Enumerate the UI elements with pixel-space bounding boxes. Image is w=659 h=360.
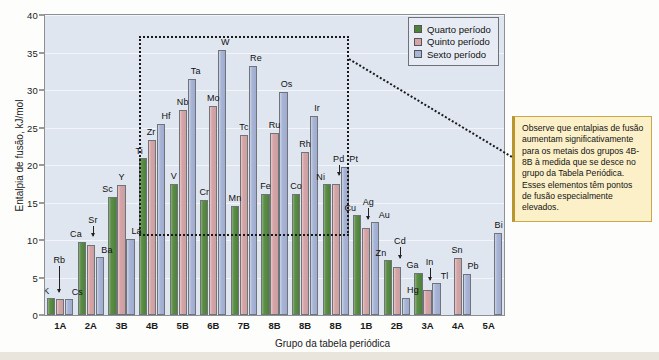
bar-Ca bbox=[78, 242, 86, 315]
bar-label-Y: Y bbox=[118, 172, 124, 182]
x-axis-tick-label-13: 4A bbox=[452, 320, 464, 331]
bar-Ba bbox=[96, 257, 104, 316]
y-axis: Entalpia de fusão, kJ/mol 05101520253035… bbox=[0, 0, 44, 330]
y-axis-tick-label: 20 bbox=[27, 160, 38, 171]
bar-label-Rb: Rb bbox=[53, 255, 65, 265]
bar-Ru bbox=[270, 133, 278, 315]
bar-label-V: V bbox=[171, 171, 177, 181]
bar-La bbox=[126, 239, 134, 316]
bar-label-Ba: Ba bbox=[101, 245, 112, 255]
bar-label-Os: Os bbox=[281, 79, 293, 89]
x-axis-tick-label-2: 3B bbox=[115, 320, 127, 331]
bar-label-Sr: Sr bbox=[88, 215, 97, 225]
bar-label-Ir: Ir bbox=[314, 103, 320, 113]
bar-label-Pd: Pd bbox=[333, 154, 344, 164]
y-axis-tick-label: 40 bbox=[27, 10, 38, 21]
bar-Rh bbox=[301, 152, 309, 315]
label-leader-line-Rb bbox=[59, 266, 60, 292]
bar-label-Sc: Sc bbox=[102, 184, 113, 194]
bar-label-La: La bbox=[131, 226, 141, 236]
bar-label-Ni: Ni bbox=[316, 172, 325, 182]
bar-Ni bbox=[323, 184, 331, 315]
bar-V bbox=[170, 184, 178, 315]
legend-item-quinto-periodo: Quinto período bbox=[414, 36, 491, 47]
y-axis-tick-label: 10 bbox=[27, 235, 38, 246]
chart-figure: Entalpia de fusão, kJ/mol 05101520253035… bbox=[0, 0, 659, 360]
bar-label-Ti: Ti bbox=[135, 146, 142, 156]
label-leader-line-Cd bbox=[400, 247, 401, 258]
bar-Rb bbox=[56, 299, 64, 316]
bar-Sn bbox=[454, 258, 462, 315]
bar-Zn bbox=[384, 260, 392, 315]
x-axis-title: Grupo da tabela periódica bbox=[275, 338, 390, 349]
x-axis-tick-label-3: 4B bbox=[146, 320, 158, 331]
bar-label-Cr: Cr bbox=[199, 187, 209, 197]
bar-label-Ag: Ag bbox=[363, 197, 374, 207]
gridline bbox=[45, 90, 504, 91]
legend-item-sexto-periodo: Sexto período bbox=[414, 49, 491, 60]
bar-label-Nb: Nb bbox=[177, 97, 189, 107]
x-axis-tick-label-6: 7B bbox=[238, 320, 250, 331]
y-axis-tick-label: 15 bbox=[27, 197, 38, 208]
bar-label-Zr: Zr bbox=[147, 127, 156, 137]
x-axis-tick-label-10: 1B bbox=[360, 320, 372, 331]
bar-label-Sn: Sn bbox=[451, 245, 462, 255]
bar-Cd bbox=[393, 267, 401, 315]
bar-Mn bbox=[231, 206, 239, 316]
bar-K bbox=[47, 298, 55, 315]
bar-label-In: In bbox=[426, 257, 434, 267]
label-leader-line-Ag bbox=[368, 208, 369, 219]
legend-label-quarto: Quarto período bbox=[427, 24, 491, 35]
bar-Mo bbox=[209, 106, 217, 315]
bar-label-Ru: Ru bbox=[269, 120, 281, 130]
bar-Au bbox=[371, 222, 379, 315]
x-axis-tick-label-9: 8B bbox=[330, 320, 342, 331]
bar-Os bbox=[279, 92, 287, 315]
x-axis-tick-label-1: 2A bbox=[85, 320, 97, 331]
bar-Fe bbox=[261, 194, 269, 316]
bar-Y bbox=[117, 185, 125, 315]
legend-swatch-icon-sexto bbox=[414, 50, 422, 58]
bar-W bbox=[218, 50, 226, 315]
bar-label-Tc: Tc bbox=[239, 122, 248, 132]
bar-label-K: K bbox=[44, 286, 49, 296]
bar-label-Hf: Hf bbox=[161, 111, 170, 121]
bar-Sr bbox=[87, 245, 95, 316]
legend: Quarto período Quinto período Sexto perí… bbox=[408, 17, 499, 66]
y-axis-tick-label: 35 bbox=[27, 47, 38, 58]
bar-Pb bbox=[463, 274, 471, 315]
legend-swatch-icon-quarto bbox=[414, 25, 422, 33]
bar-Cs bbox=[65, 299, 73, 315]
bar-label-Tl: Tl bbox=[441, 271, 449, 281]
bar-label-W: W bbox=[221, 37, 230, 47]
bar-Co bbox=[292, 194, 300, 316]
legend-label-sexto: Sexto período bbox=[427, 49, 486, 60]
bar-Cu bbox=[353, 215, 361, 315]
y-axis-title: Entalpia de fusão, kJ/mol bbox=[14, 41, 25, 271]
x-axis-tick-label-12: 3A bbox=[421, 320, 433, 331]
y-axis-tick-label: 30 bbox=[27, 85, 38, 96]
bar-Ir bbox=[310, 116, 318, 316]
bar-Pt bbox=[341, 167, 349, 315]
bar-label-Cu: Cu bbox=[344, 203, 356, 213]
x-axis-tick-label-7: 8B bbox=[268, 320, 280, 331]
x-axis-tick-label-5: 6B bbox=[207, 320, 219, 331]
bar-label-Mn: Mn bbox=[229, 193, 242, 203]
bar-label-Cd: Cd bbox=[394, 236, 406, 246]
bar-Sc bbox=[108, 197, 116, 316]
bar-label-Au: Au bbox=[379, 210, 390, 220]
bar-Ta bbox=[188, 79, 196, 315]
x-axis-tick-label-0: 1A bbox=[54, 320, 66, 331]
bar-Hg bbox=[402, 298, 410, 315]
x-axis-tick-label-8: 8B bbox=[299, 320, 311, 331]
bar-label-Mo: Mo bbox=[207, 93, 220, 103]
bar-Tl bbox=[432, 283, 440, 315]
x-axis-tick-label-14: 5A bbox=[483, 320, 495, 331]
bar-Tc bbox=[240, 135, 248, 315]
bar-Pd bbox=[332, 184, 340, 315]
bar-Ag bbox=[362, 228, 370, 315]
legend-swatch-icon-quinto bbox=[414, 38, 422, 46]
bar-label-Zn: Zn bbox=[376, 248, 387, 258]
bar-label-Pt: Pt bbox=[349, 154, 358, 164]
bar-label-Rh: Rh bbox=[299, 139, 311, 149]
